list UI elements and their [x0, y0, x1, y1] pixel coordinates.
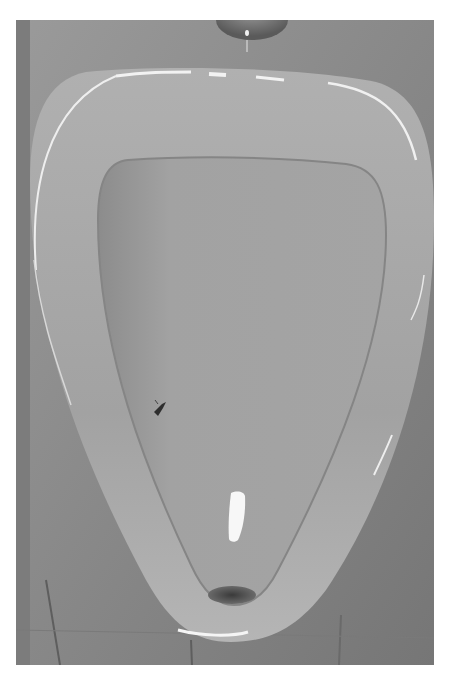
urinal-photo: [16, 20, 434, 665]
drain-icon: [208, 586, 256, 604]
